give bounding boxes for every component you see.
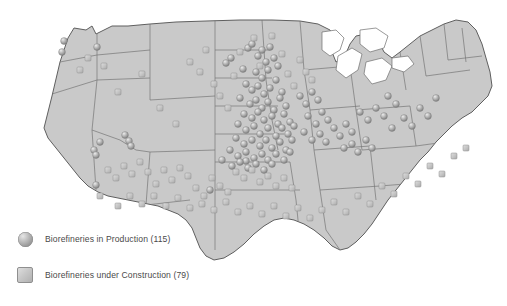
production-marker	[247, 101, 254, 108]
construction-marker	[121, 163, 127, 169]
production-marker	[337, 133, 344, 140]
construction-marker	[145, 169, 151, 175]
production-marker	[249, 137, 256, 144]
construction-marker	[225, 105, 231, 111]
production-marker	[357, 109, 364, 116]
construction-marker	[265, 173, 271, 179]
construction-marker	[115, 203, 121, 209]
production-marker	[243, 158, 250, 165]
production-marker	[249, 41, 256, 48]
production-marker	[251, 123, 258, 130]
production-marker	[297, 93, 304, 100]
construction-marker	[157, 105, 163, 111]
construction-marker	[319, 207, 325, 213]
construction-marker	[203, 47, 209, 53]
production-marker	[373, 105, 380, 112]
production-marker	[309, 89, 316, 96]
production-marker	[219, 157, 226, 164]
production-marker	[277, 139, 284, 146]
production-marker	[227, 147, 234, 154]
construction-marker	[237, 49, 243, 55]
construction-marker	[115, 89, 121, 95]
construction-marker	[303, 69, 309, 75]
construction-marker	[271, 203, 277, 209]
construction-marker	[97, 193, 103, 199]
construction-marker	[257, 179, 263, 185]
production-marker	[309, 137, 316, 144]
construction-marker	[193, 185, 199, 191]
construction-marker	[439, 171, 445, 177]
production-marker	[287, 149, 294, 156]
production-marker	[267, 85, 274, 92]
production-marker	[365, 117, 372, 124]
construction-marker	[231, 73, 237, 79]
production-marker	[323, 139, 330, 146]
construction-marker	[185, 173, 191, 179]
construction-marker	[427, 163, 433, 169]
production-marker	[305, 113, 312, 120]
production-marker	[251, 155, 258, 162]
production-marker	[233, 135, 240, 142]
production-marker	[289, 137, 296, 144]
production-marker	[325, 117, 332, 124]
production-marker	[283, 103, 290, 110]
production-marker	[385, 93, 392, 100]
production-marker	[317, 131, 324, 138]
production-marker	[261, 91, 268, 98]
construction-marker	[105, 167, 111, 173]
construction-marker	[139, 201, 145, 207]
production-marker	[229, 163, 236, 170]
construction-marker	[197, 69, 203, 75]
production-marker	[369, 145, 376, 152]
production-marker	[319, 109, 326, 116]
construction-marker	[169, 177, 175, 183]
construction-marker	[163, 203, 169, 209]
construction-marker	[309, 77, 315, 83]
biorefinery-map-figure: Biorefineries in Production (115) Bioref…	[0, 0, 507, 306]
construction-marker	[331, 199, 337, 205]
production-marker	[237, 95, 244, 102]
production-marker	[263, 137, 270, 144]
sphere-marker-icon	[12, 228, 38, 250]
production-marker	[241, 111, 248, 118]
construction-marker	[251, 35, 257, 41]
production-marker	[417, 105, 424, 112]
construction-marker	[177, 165, 183, 171]
production-marker	[425, 113, 432, 120]
production-marker	[363, 137, 370, 144]
construction-marker	[379, 183, 385, 189]
production-marker	[253, 97, 260, 104]
construction-marker	[367, 201, 373, 207]
production-marker	[401, 115, 408, 122]
construction-marker	[307, 215, 313, 221]
production-marker	[303, 101, 310, 108]
construction-marker	[187, 205, 193, 211]
construction-marker	[175, 195, 181, 201]
production-marker	[265, 67, 272, 74]
production-marker	[273, 133, 280, 140]
production-marker	[255, 109, 262, 116]
production-marker	[269, 145, 276, 152]
construction-marker	[151, 193, 157, 199]
production-marker	[255, 83, 262, 90]
construction-marker	[137, 159, 143, 165]
production-marker	[253, 161, 260, 168]
construction-marker	[153, 181, 159, 187]
construction-marker	[257, 63, 263, 69]
production-marker	[97, 139, 104, 146]
production-marker	[271, 55, 278, 62]
construction-marker	[285, 71, 291, 77]
square-marker-icon	[12, 264, 38, 286]
legend-item-construction: Biorefineries under Construction (79)	[12, 262, 272, 288]
production-marker	[93, 182, 100, 189]
production-marker	[301, 129, 308, 136]
production-marker	[243, 149, 250, 156]
construction-marker	[129, 171, 135, 177]
production-marker	[279, 125, 286, 132]
construction-marker	[241, 175, 247, 181]
production-marker	[291, 123, 298, 130]
construction-marker	[343, 209, 349, 215]
construction-marker	[199, 201, 205, 207]
construction-marker	[355, 193, 361, 199]
production-marker	[240, 66, 247, 73]
